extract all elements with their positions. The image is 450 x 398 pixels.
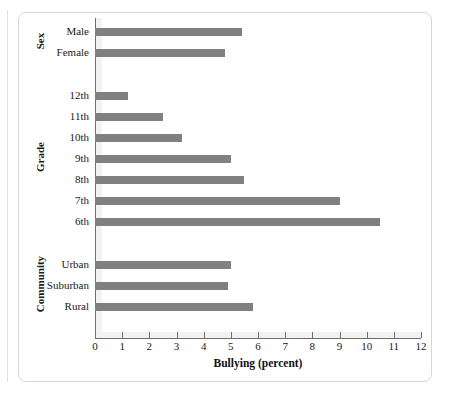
category-label: Rural bbox=[65, 300, 89, 312]
bar-row: Suburban bbox=[95, 282, 421, 290]
bar-row: Female bbox=[95, 49, 421, 57]
bar-row: 10th bbox=[95, 134, 421, 142]
x-axis-line bbox=[95, 338, 421, 339]
bar-row: Urban bbox=[95, 261, 421, 269]
group-label-grade: Grade bbox=[34, 117, 46, 197]
category-label: Urban bbox=[62, 258, 90, 270]
x-tick bbox=[421, 332, 422, 338]
plot-area: 0123456789101112 Bullying (percent) Male… bbox=[0, 0, 450, 398]
x-tick-label: 8 bbox=[300, 340, 324, 352]
x-tick-label: 10 bbox=[355, 340, 379, 352]
bar bbox=[95, 282, 228, 290]
group-label-community: Community bbox=[34, 244, 46, 324]
chart-screenshot: 0123456789101112 Bullying (percent) Male… bbox=[0, 0, 450, 398]
x-tick bbox=[340, 332, 341, 338]
bar bbox=[95, 197, 340, 205]
bar bbox=[95, 303, 253, 311]
x-tick bbox=[204, 332, 205, 338]
bar bbox=[95, 155, 231, 163]
bar bbox=[95, 261, 231, 269]
x-tick-label: 4 bbox=[192, 340, 216, 352]
x-tick-label: 11 bbox=[382, 340, 406, 352]
x-tick bbox=[231, 332, 232, 338]
category-label: 12th bbox=[69, 89, 89, 101]
x-tick-label: 1 bbox=[110, 340, 134, 352]
bar-row: 8th bbox=[95, 176, 421, 184]
x-tick-label: 7 bbox=[273, 340, 297, 352]
x-tick bbox=[122, 332, 123, 338]
x-tick-label: 6 bbox=[246, 340, 270, 352]
bar-row: 6th bbox=[95, 218, 421, 226]
x-tick-label: 3 bbox=[165, 340, 189, 352]
bar bbox=[95, 176, 244, 184]
category-label: Male bbox=[66, 25, 89, 37]
bar-row: Rural bbox=[95, 303, 421, 311]
category-label: 7th bbox=[75, 194, 89, 206]
x-tick-label: 0 bbox=[83, 340, 107, 352]
x-tick bbox=[177, 332, 178, 338]
x-tick bbox=[149, 332, 150, 338]
bar-row: 9th bbox=[95, 155, 421, 163]
x-tick bbox=[312, 332, 313, 338]
bar-row: 12th bbox=[95, 92, 421, 100]
x-axis-title: Bullying (percent) bbox=[95, 357, 421, 369]
group-label-sex: Sex bbox=[34, 1, 46, 81]
category-label: 10th bbox=[69, 131, 89, 143]
x-tick bbox=[258, 332, 259, 338]
x-tick bbox=[367, 332, 368, 338]
x-tick bbox=[394, 332, 395, 338]
bar-row: 7th bbox=[95, 197, 421, 205]
category-label: Suburban bbox=[47, 279, 89, 291]
bar-row: 11th bbox=[95, 113, 421, 121]
category-label: 6th bbox=[75, 215, 89, 227]
bar bbox=[95, 49, 225, 57]
bar bbox=[95, 113, 163, 121]
x-tick-label: 5 bbox=[219, 340, 243, 352]
category-label: 9th bbox=[75, 152, 89, 164]
category-label: Female bbox=[57, 46, 89, 58]
x-tick-label: 2 bbox=[137, 340, 161, 352]
bar bbox=[95, 218, 380, 226]
bar-row: Male bbox=[95, 28, 421, 36]
bar bbox=[95, 134, 182, 142]
category-label: 11th bbox=[70, 110, 89, 122]
category-label: 8th bbox=[75, 173, 89, 185]
x-tick bbox=[95, 332, 96, 338]
x-tick bbox=[285, 332, 286, 338]
bar bbox=[95, 92, 128, 100]
bar bbox=[95, 28, 242, 36]
x-tick-label: 12 bbox=[409, 340, 433, 352]
x-tick-label: 9 bbox=[328, 340, 352, 352]
